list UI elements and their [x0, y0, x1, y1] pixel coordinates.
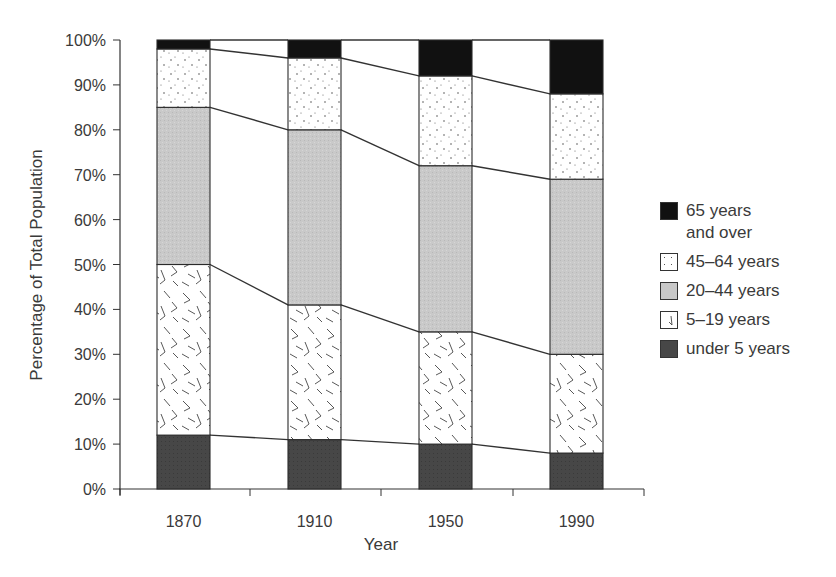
legend-label: under 5 years	[686, 338, 826, 360]
y-tick-label: 90%	[74, 77, 106, 94]
legend-label: 45–64 years	[686, 251, 826, 273]
y-tick-label: 40%	[74, 301, 106, 318]
y-tick-label: 100%	[65, 32, 106, 49]
legend-item-under5: under 5 years	[660, 338, 836, 360]
y-axis-title: Percentage of Total Population	[27, 149, 46, 380]
legend-item-45to64: 45–64 years	[660, 251, 836, 273]
legend: 65 years and over 45–64 years 20–44 year…	[660, 200, 836, 367]
legend-label: 65 years	[686, 200, 826, 222]
x-axis-title: Year	[364, 535, 399, 554]
bar-segment	[550, 94, 603, 179]
bar-segment	[550, 179, 603, 354]
y-tick-label: 70%	[74, 167, 106, 184]
x-tick-label: 1870	[166, 513, 202, 530]
swatch-5to19-icon	[660, 311, 678, 329]
bar-segment	[157, 40, 210, 49]
legend-item-20to44: 20–44 years	[660, 280, 836, 302]
x-tick-label: 1950	[428, 513, 464, 530]
bar-segment	[157, 107, 210, 264]
swatch-45to64-icon	[660, 253, 678, 271]
y-tick-label: 60%	[74, 212, 106, 229]
bar-segment	[288, 58, 341, 130]
legend-item-65plus: 65 years and over	[660, 200, 836, 244]
bar-1950	[419, 40, 472, 489]
x-axis-ticks: 1870191019501990	[120, 489, 644, 530]
legend-label: 5–19 years	[686, 309, 826, 331]
y-tick-label: 20%	[74, 391, 106, 408]
y-tick-label: 0%	[83, 481, 106, 498]
x-tick-label: 1990	[559, 513, 595, 530]
bar-segment	[550, 453, 603, 489]
bar-segment	[157, 265, 210, 436]
x-tick-label: 1910	[297, 513, 333, 530]
bar-segment	[157, 435, 210, 489]
y-tick-label: 80%	[74, 122, 106, 139]
bar-segment	[419, 40, 472, 76]
bar-segment	[288, 130, 341, 305]
bar-segment	[419, 332, 472, 444]
swatch-under5-icon	[660, 340, 678, 358]
y-tick-label: 50%	[74, 257, 106, 274]
bar-segment	[550, 40, 603, 94]
y-axis-ticks: 0%10%20%30%40%50%60%70%80%90%100%	[65, 32, 120, 498]
bar-1910	[288, 40, 341, 489]
bars	[157, 40, 603, 489]
legend-label: 20–44 years	[686, 280, 826, 302]
swatch-65plus-icon	[660, 202, 678, 220]
connector-lines	[210, 40, 550, 453]
bar-1990	[550, 40, 603, 489]
y-tick-label: 30%	[74, 346, 106, 363]
bar-segment	[288, 40, 341, 58]
bar-segment	[419, 76, 472, 166]
bar-segment	[550, 354, 603, 453]
bar-segment	[419, 444, 472, 489]
bar-segment	[419, 166, 472, 332]
bar-segment	[157, 49, 210, 107]
bar-segment	[288, 440, 341, 489]
bar-segment	[288, 305, 341, 440]
y-tick-label: 10%	[74, 436, 106, 453]
legend-label-cont: and over	[686, 222, 826, 244]
bar-1870	[157, 40, 210, 489]
swatch-20to44-icon	[660, 282, 678, 300]
legend-item-5to19: 5–19 years	[660, 309, 836, 331]
